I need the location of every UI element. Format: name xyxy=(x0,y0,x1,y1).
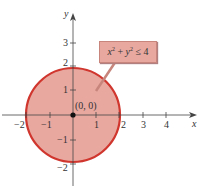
x-tick-label: −1 xyxy=(41,120,52,130)
disk-diagram: y x −2 −1 1 2 3 4 3 2 1 −1 −2 (0, 0) x2 … xyxy=(0,0,219,188)
y-tick-label: −1 xyxy=(57,135,68,145)
x-tick-label: 1 xyxy=(94,120,99,130)
y-tick-label: 3 xyxy=(63,38,68,48)
y-tick-label: −2 xyxy=(57,163,68,173)
origin-point xyxy=(70,112,75,117)
x-tick-label: 4 xyxy=(164,120,169,130)
x-tick-label: −2 xyxy=(14,120,25,130)
y-tick-label: 1 xyxy=(63,85,68,95)
diagram-canvas xyxy=(0,0,219,188)
y-axis-label: y xyxy=(64,9,68,19)
x-axis-label: x xyxy=(192,119,196,129)
x-tick-label: 2 xyxy=(121,120,126,130)
inequality-annotation: x2 + y2 ≤ 4 xyxy=(99,41,157,63)
inequality-text: x2 + y2 ≤ 4 xyxy=(100,46,156,57)
x-tick-label: 3 xyxy=(141,120,146,130)
y-tick-label: 2 xyxy=(63,58,68,68)
origin-label: (0, 0) xyxy=(75,101,97,111)
